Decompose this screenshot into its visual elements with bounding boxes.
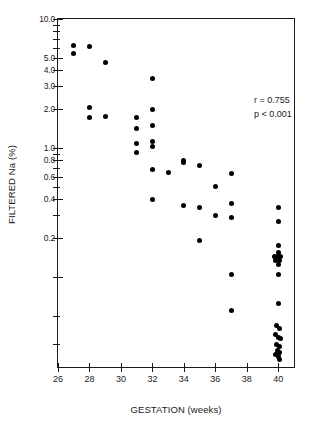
y-tick-mark bbox=[53, 19, 63, 20]
data-point bbox=[229, 171, 234, 176]
x-tick-mark bbox=[278, 363, 279, 372]
y-minor-tick-mark bbox=[53, 48, 60, 49]
y-tick-label: 0.4 bbox=[44, 194, 55, 204]
data-point bbox=[276, 272, 281, 277]
y-tick-mark bbox=[53, 277, 63, 278]
y-tick-mark bbox=[53, 160, 63, 161]
x-tick-mark bbox=[247, 363, 248, 372]
y-tick-label: 2.0 bbox=[44, 104, 55, 114]
y-minor-tick-mark bbox=[53, 215, 60, 216]
y-tick-label: 3.0 bbox=[44, 81, 55, 91]
x-tick-mark bbox=[89, 363, 90, 372]
data-point bbox=[134, 141, 139, 146]
data-point bbox=[276, 205, 281, 210]
data-point bbox=[166, 170, 171, 175]
y-minor-tick-mark bbox=[53, 344, 60, 345]
data-point bbox=[87, 115, 92, 120]
x-tick-mark bbox=[215, 363, 216, 372]
y-minor-tick-mark bbox=[53, 39, 60, 40]
data-point bbox=[181, 160, 186, 165]
data-point bbox=[273, 352, 278, 357]
data-point bbox=[134, 115, 139, 120]
data-point bbox=[276, 250, 281, 255]
data-point bbox=[278, 254, 283, 259]
y-tick-label: 5.0 bbox=[44, 53, 55, 63]
data-point bbox=[213, 184, 218, 189]
data-point bbox=[229, 215, 234, 220]
x-tick-label: 34 bbox=[179, 374, 189, 384]
x-tick-mark bbox=[58, 363, 59, 372]
data-point bbox=[150, 123, 155, 128]
data-point bbox=[71, 51, 76, 56]
y-tick-mark bbox=[53, 58, 63, 59]
y-axis-title: FILTERED Na (%) bbox=[2, 0, 20, 368]
data-point bbox=[229, 272, 234, 277]
x-tick-label: 28 bbox=[84, 374, 94, 384]
x-axis-title-label: GESTATION (weeks) bbox=[130, 404, 221, 415]
y-tick-mark bbox=[53, 199, 63, 200]
data-point bbox=[197, 163, 202, 168]
data-point bbox=[229, 201, 234, 206]
x-tick-label: 38 bbox=[242, 374, 252, 384]
data-point bbox=[277, 350, 282, 355]
x-tick-label: 36 bbox=[210, 374, 220, 384]
data-point bbox=[277, 326, 282, 331]
data-point bbox=[103, 60, 108, 65]
data-point bbox=[276, 243, 281, 248]
data-point bbox=[276, 262, 281, 267]
correlation-annotation: r = 0.755 bbox=[254, 93, 292, 107]
data-point bbox=[134, 150, 139, 155]
data-point bbox=[277, 258, 282, 263]
data-point bbox=[276, 354, 281, 359]
x-axis-title: GESTATION (weeks) bbox=[57, 404, 295, 415]
data-point bbox=[150, 76, 155, 81]
statistics-annotation: r = 0.755 p < 0.001 bbox=[254, 93, 292, 121]
data-point bbox=[274, 342, 279, 347]
x-tick-mark bbox=[184, 363, 185, 372]
y-minor-tick-mark bbox=[53, 168, 60, 169]
data-point bbox=[150, 197, 155, 202]
data-point bbox=[71, 43, 76, 48]
data-point bbox=[272, 254, 277, 259]
data-point bbox=[273, 258, 278, 263]
data-point bbox=[103, 114, 108, 119]
data-points-layer bbox=[58, 19, 294, 367]
data-point bbox=[87, 44, 92, 49]
x-tick-label: 40 bbox=[273, 374, 283, 384]
data-point bbox=[276, 335, 281, 340]
data-point bbox=[276, 301, 281, 306]
data-point bbox=[134, 126, 139, 131]
y-minor-tick-mark bbox=[53, 31, 60, 32]
y-tick-label: 0.6 bbox=[44, 172, 55, 182]
x-tick-label: 26 bbox=[53, 374, 63, 384]
y-tick-label: 10.0 bbox=[39, 14, 55, 24]
data-point bbox=[150, 167, 155, 172]
y-tick-label: 0.2 bbox=[44, 233, 55, 243]
data-point bbox=[197, 238, 202, 243]
y-minor-tick-mark bbox=[53, 187, 60, 188]
data-point bbox=[277, 357, 282, 362]
x-tick-mark bbox=[121, 363, 122, 372]
data-point bbox=[278, 336, 283, 341]
data-point bbox=[275, 254, 280, 259]
y-minor-tick-mark bbox=[53, 25, 60, 26]
data-point bbox=[275, 348, 280, 353]
data-point bbox=[277, 344, 282, 349]
data-point bbox=[229, 308, 234, 313]
x-tick-label: 32 bbox=[147, 374, 157, 384]
data-point bbox=[150, 139, 155, 144]
data-point bbox=[181, 203, 186, 208]
data-point bbox=[197, 205, 202, 210]
pvalue-annotation: p < 0.001 bbox=[254, 107, 292, 121]
y-tick-label: 1.0 bbox=[44, 143, 55, 153]
y-minor-tick-mark bbox=[53, 316, 60, 317]
y-tick-mark bbox=[53, 109, 63, 110]
data-point bbox=[213, 213, 218, 218]
y-axis-title-label: FILTERED Na (%) bbox=[6, 145, 17, 224]
x-tick-label: 30 bbox=[116, 374, 126, 384]
y-minor-tick-mark bbox=[53, 154, 60, 155]
data-point bbox=[150, 107, 155, 112]
x-tick-mark bbox=[152, 363, 153, 372]
plot-area: 10.05.04.03.02.01.00.80.60.40.2262830323… bbox=[57, 18, 295, 368]
y-tick-mark bbox=[53, 177, 63, 178]
